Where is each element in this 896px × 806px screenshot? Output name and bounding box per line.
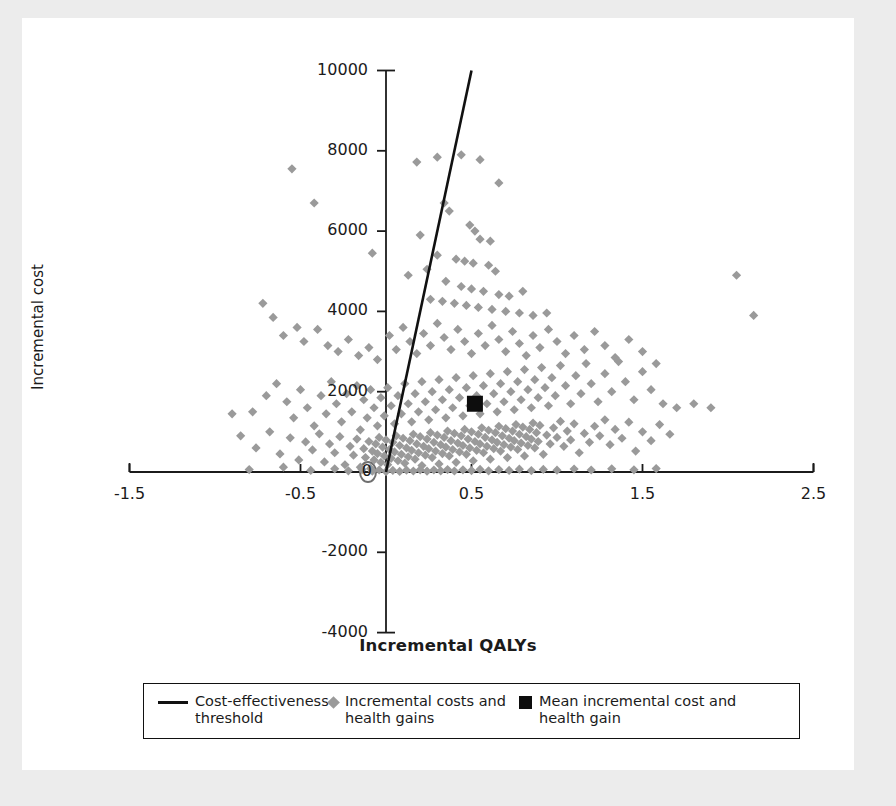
- scatter-point: [590, 327, 599, 336]
- scatter-point: [621, 377, 630, 386]
- scatter-point: [505, 292, 514, 301]
- scatter-point: [412, 349, 421, 358]
- scatter-point: [323, 341, 332, 350]
- scatter-point: [542, 308, 551, 317]
- scatter-point: [330, 448, 339, 457]
- scatter-point: [380, 411, 389, 420]
- scatter-point: [522, 351, 531, 360]
- scatter-point: [563, 426, 572, 435]
- scatter-point: [313, 325, 322, 334]
- legend-item-mean: Mean incremental cost and health gain: [519, 684, 736, 738]
- scatter-point: [595, 431, 604, 440]
- y-tick-label: 4000: [276, 300, 368, 319]
- scatter-point: [624, 335, 633, 344]
- scatter-point: [368, 249, 377, 258]
- scatter-point: [530, 375, 539, 384]
- scatter-point: [655, 420, 664, 429]
- scatter-point: [248, 407, 257, 416]
- scatter-point: [593, 397, 602, 406]
- scatter-point: [414, 407, 423, 416]
- scatter-point: [286, 433, 295, 442]
- scatter-point: [484, 261, 493, 270]
- scatter-point: [515, 339, 524, 348]
- scatter-point: [486, 369, 495, 378]
- x-tick-label: -0.5: [261, 484, 341, 503]
- scatter-point: [528, 331, 537, 340]
- y-tick-label: 6000: [276, 220, 368, 239]
- scatter-point: [452, 458, 461, 467]
- scatter-point: [287, 164, 296, 173]
- scatter-point: [506, 387, 515, 396]
- scatter-point: [486, 455, 495, 464]
- scatter-point: [299, 337, 308, 346]
- scatter-point: [587, 465, 596, 474]
- scatter-point: [520, 451, 529, 460]
- scatter-point: [294, 455, 303, 464]
- scatter-point: [392, 345, 401, 354]
- scatter-point: [404, 399, 413, 408]
- scatter-point: [580, 345, 589, 354]
- scatter-point: [301, 437, 310, 446]
- scatter-point: [494, 178, 503, 187]
- scatter-point: [458, 411, 467, 420]
- scatter-point: [658, 399, 667, 408]
- scatter-point: [518, 287, 527, 296]
- scatter-point: [421, 397, 430, 406]
- scatter-point: [416, 231, 425, 240]
- scatter-point: [486, 237, 495, 246]
- square-marker-icon: [519, 696, 532, 709]
- scatter-point: [537, 363, 546, 372]
- threshold-line-layer: [386, 71, 472, 473]
- scatter-point: [424, 415, 433, 424]
- scatter-point: [496, 379, 505, 388]
- scatter-point: [499, 397, 508, 406]
- scatter-point: [566, 399, 575, 408]
- scatter-point: [376, 393, 385, 402]
- scatter-point: [265, 427, 274, 436]
- scatter-point: [556, 417, 565, 426]
- scatter-point: [462, 383, 471, 392]
- scatter-point: [481, 341, 490, 350]
- scatter-point: [570, 331, 579, 340]
- scatter-point: [431, 405, 440, 414]
- scatter-point: [438, 297, 447, 306]
- scatter-point: [236, 431, 245, 440]
- scatter-point: [549, 423, 558, 432]
- scatter-point: [552, 466, 561, 475]
- scatter-point: [527, 403, 536, 412]
- y-axis-title: Incremental cost: [29, 227, 47, 427]
- scatter-point: [617, 434, 626, 443]
- scatter-point: [433, 153, 442, 162]
- mean-point-layer: [467, 396, 483, 412]
- scatter-point: [452, 373, 461, 382]
- scatter-point: [452, 255, 461, 264]
- x-tick-label: 0.5: [432, 484, 512, 503]
- scatter-point: [566, 435, 575, 444]
- scatter-point: [527, 466, 536, 475]
- scatter-point: [611, 425, 620, 434]
- scatter-point: [438, 395, 447, 404]
- scatter-point: [544, 325, 553, 334]
- scatter-point: [460, 257, 469, 266]
- scatter-point: [344, 335, 353, 344]
- scatter-point: [347, 407, 356, 416]
- scatter-point: [539, 450, 548, 459]
- line-marker-icon: [158, 701, 188, 704]
- diamond-marker-icon: [327, 696, 340, 709]
- scatter-point: [605, 440, 614, 449]
- scatter-point: [369, 403, 378, 412]
- scatter-point: [458, 465, 467, 474]
- scatter-point: [571, 371, 580, 380]
- scatter-point: [515, 308, 524, 317]
- scatter-point: [561, 381, 570, 390]
- scatter-point: [417, 377, 426, 386]
- scatter-point: [491, 267, 500, 276]
- scatter-point: [441, 413, 450, 422]
- scatter-point: [228, 409, 237, 418]
- scatter-point: [575, 448, 584, 457]
- scatter-point: [580, 429, 589, 438]
- y-tick-label: 2000: [276, 381, 368, 400]
- scatter-point: [689, 399, 698, 408]
- scatter-point: [607, 387, 616, 396]
- scatter-point: [600, 415, 609, 424]
